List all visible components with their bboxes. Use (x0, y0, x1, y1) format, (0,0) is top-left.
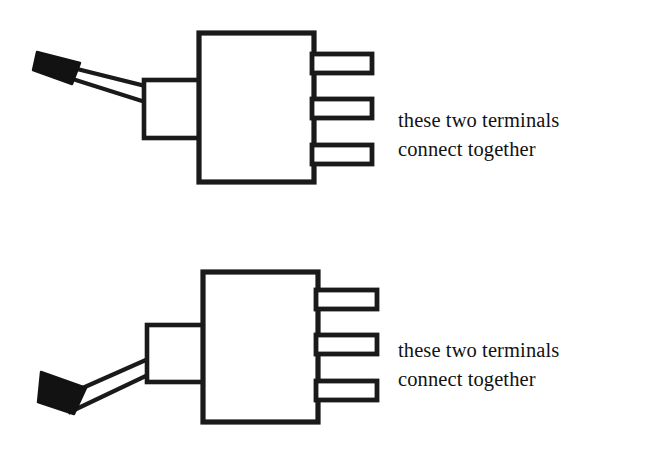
annotation-bottom: these two terminals connect together (398, 336, 559, 394)
terminal-3-down[interactable] (316, 381, 377, 400)
switch-body-up (199, 33, 314, 182)
terminal-2-up[interactable] (312, 99, 372, 118)
annotation-bottom-line2: connect together (398, 365, 559, 394)
switch-top (33, 33, 372, 182)
diagram-page: these two terminals connect together the… (0, 0, 672, 457)
terminal-1-down[interactable] (316, 290, 377, 309)
switch-body-down (203, 272, 318, 422)
switch-bushing-down (147, 325, 204, 382)
annotation-top-line2: connect together (398, 135, 559, 164)
toggle-lever-up[interactable] (33, 52, 145, 102)
terminal-3-up[interactable] (312, 145, 372, 164)
terminal-2-down[interactable] (316, 335, 377, 354)
annotation-bottom-line1: these two terminals (398, 336, 559, 365)
switch-bottom (38, 272, 377, 422)
switch-diagram-canvas (0, 0, 672, 457)
switch-bushing-up (144, 80, 200, 138)
toggle-lever-down[interactable] (38, 359, 148, 414)
annotation-top: these two terminals connect together (398, 106, 559, 164)
annotation-top-line1: these two terminals (398, 106, 559, 135)
lever-tip-up (33, 52, 80, 84)
terminal-1-up[interactable] (312, 54, 372, 73)
